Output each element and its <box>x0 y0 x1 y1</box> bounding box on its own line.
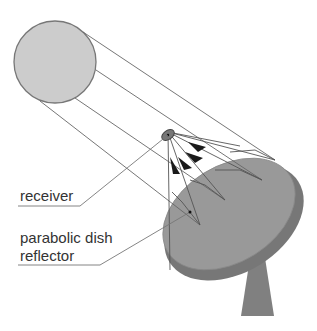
receiver-label: receiver <box>20 187 73 204</box>
sun-icon <box>14 21 96 103</box>
parabolic-dish-diagram: receiver parabolic dish reflector <box>0 0 317 331</box>
reflector-label-line2: reflector <box>20 247 74 264</box>
reflector-label-line1: parabolic dish <box>20 229 113 246</box>
reflection-arrows <box>170 142 206 174</box>
